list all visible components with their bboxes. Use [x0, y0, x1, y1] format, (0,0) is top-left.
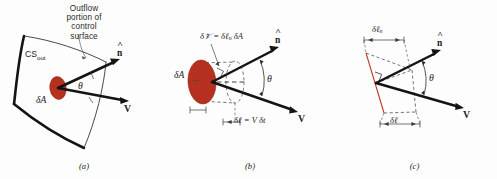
delta-ell-n-extension-right	[404, 40, 410, 68]
n-hat-glyph: n	[117, 48, 122, 59]
panel-c-caption: (c)	[332, 161, 497, 171]
panel-b-caption: (b)	[168, 161, 332, 171]
panel-a-normal-vector-label: n	[117, 48, 122, 59]
theta-arc-arrow-bottom	[421, 90, 424, 95]
panel-a-velocity-vector-label: V	[124, 104, 131, 115]
theta-angle-arc-upper	[91, 73, 94, 79]
volume-equation-arrowhead	[215, 61, 219, 66]
normal-vector-shaft	[212, 51, 272, 82]
velocity-vector-arrowhead	[289, 106, 298, 113]
panel-b-normal-vector-label: n	[275, 35, 280, 46]
outflow-callout-line-1: Outflow	[48, 4, 120, 13]
panel-b-graphics	[168, 0, 332, 179]
panel-c-delta-ell-label: δℓ	[390, 116, 398, 126]
theta-angle-arc-lower	[89, 97, 93, 103]
panel-a-theta-label: θ	[78, 81, 83, 92]
theta-angle-arc	[260, 60, 264, 96]
delta-ell-extension-right	[416, 112, 420, 124]
n-hat-glyph: n	[275, 35, 280, 46]
outflow-callout-line-3: control	[48, 22, 120, 31]
volume-equation-head: δ𝒱 = δℓ	[200, 31, 229, 41]
panel-a-caption: (a)	[0, 161, 168, 171]
swept-volume-equation: δ𝒱 = δℓn δA	[200, 32, 243, 42]
cs-subscript: out	[37, 54, 46, 61]
panel-c-normal-vector-label: n	[437, 38, 442, 49]
delta-ell-extension-left	[380, 113, 384, 124]
control-surface-out-label: CSout	[25, 50, 46, 62]
panel-b-length-equation: δℓ = V δt	[234, 116, 265, 126]
panel-c-theta-label: θ	[429, 73, 434, 84]
delta-ell-n-subscript: n	[380, 28, 383, 34]
delta-ell-arrow-right	[411, 122, 416, 126]
volume-equation-subscript: n	[229, 35, 232, 41]
panel-b-delta-area-label: δA	[174, 70, 184, 81]
control-surface-outflow-figure: Outflow portion of control surface CSout…	[0, 0, 497, 179]
delta-ell-n-arrow-left	[368, 38, 373, 42]
delta-ell-n-extension-left	[364, 40, 366, 53]
outflow-callout-line-4: surface	[48, 32, 120, 41]
panel-c-delta-ell-n-label: δℓn	[372, 25, 383, 35]
panel-c-projection: δℓn δℓ θ n V (c)	[332, 0, 497, 179]
panel-b-swept-volume: δ𝒱 = δℓn δA δA θ n V δℓ = V δt (b)	[168, 0, 332, 179]
velocity-vector-shaft	[212, 82, 290, 109]
theta-angle-arc	[422, 61, 426, 95]
panel-b-velocity-vector-label: V	[298, 114, 305, 125]
theta-arc-arrow-bottom	[259, 91, 262, 96]
projection-dashed-bottom	[384, 112, 416, 113]
volume-equation-tail: δA	[234, 31, 243, 41]
n-hat-glyph: n	[437, 38, 442, 49]
control-surface-bottom-edge	[14, 104, 84, 148]
panel-a-delta-area-label: δA	[36, 95, 46, 106]
delta-ell-n-arrow-right	[395, 38, 400, 42]
panel-a-control-surface: Outflow portion of control surface CSout…	[0, 0, 168, 179]
normal-vector-shaft	[376, 54, 434, 83]
delta-ell-n-head: δℓ	[372, 24, 380, 34]
cs-text: CS	[25, 49, 37, 59]
outflow-callout-line-2: portion of	[48, 13, 120, 22]
panel-c-graphics	[332, 0, 497, 179]
control-surface-left-edge	[14, 36, 24, 104]
velocity-vector-shaft	[376, 83, 456, 106]
panel-b-theta-label: θ	[267, 74, 272, 85]
normal-vector-shaft	[58, 62, 114, 88]
panel-c-velocity-vector-label: V	[463, 110, 470, 121]
projection-dashed-right	[412, 70, 416, 112]
delta-ell-arrow-left	[384, 122, 389, 126]
delta-ell-dimension-arrow	[227, 120, 232, 124]
